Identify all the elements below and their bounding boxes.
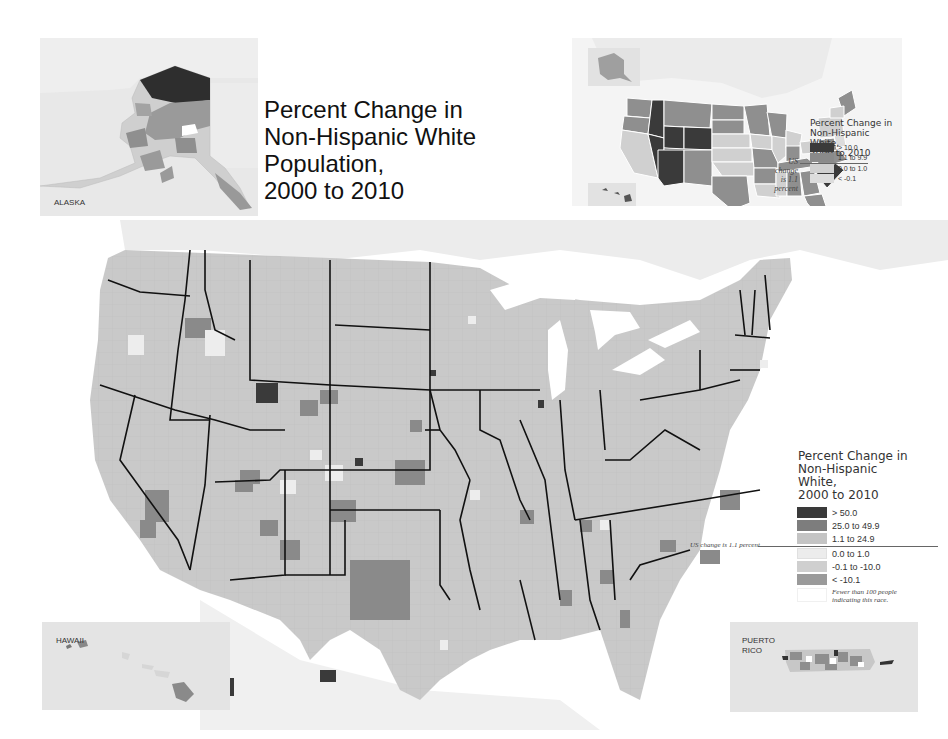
county-legend-item: Fewer than 100 people indicating this ra… — [797, 588, 904, 604]
legend-label: 25.0 to 49.9 — [832, 521, 880, 531]
puerto-rico-label-line: PUERTO — [742, 636, 775, 646]
county-legend-title: Percent Change in Non-Hispanic White, 20… — [798, 450, 908, 502]
state-legend-item: > 10.0 — [810, 143, 858, 152]
alaska-map-graphic — [40, 38, 258, 216]
alaska-label: ALASKA — [54, 198, 85, 208]
legend-label: 0.0 to 1.0 — [832, 549, 870, 559]
puerto-rico-label: PUERTO RICO — [742, 636, 775, 656]
legend-swatch — [797, 588, 827, 602]
legend-label: < -0.1 — [838, 175, 856, 182]
legend-swatch — [797, 520, 827, 531]
note-line: US — [760, 157, 798, 166]
hawaii-inset-map: HAWAII — [42, 622, 230, 710]
county-legend-item: > 50.0 — [797, 507, 857, 518]
legend-swatch — [810, 153, 834, 162]
title-line-4: 2000 to 2010 — [264, 177, 476, 204]
county-legend-item: 1.1 to 24.9 — [797, 533, 875, 544]
legend-label: Fewer than 100 people indicating this ra… — [832, 588, 904, 604]
state-legend-item: 1.1 to 9.9 — [810, 153, 867, 162]
legend-label: < -10.1 — [832, 575, 860, 585]
county-us-change-line — [758, 546, 938, 547]
hawaii-label: HAWAII — [56, 636, 84, 646]
county-legend-item: 25.0 to 49.9 — [797, 520, 880, 531]
state-legend-item: 0.0 to 1.0 — [810, 164, 867, 173]
legend-label: -0.1 to -10.0 — [832, 562, 881, 572]
state-us-change-note: US change is 1.1 percent — [760, 157, 798, 193]
county-legend-item: < -10.1 — [797, 574, 860, 585]
legend-swatch — [797, 548, 827, 559]
legend-swatch — [797, 507, 827, 518]
legend-swatch — [810, 174, 834, 183]
state-legend-title-line: Percent Change in — [810, 118, 892, 128]
note-line: change — [760, 166, 798, 175]
legend-swatch — [797, 561, 827, 572]
map-title: Percent Change in Non-Hispanic White Pop… — [264, 96, 476, 204]
legend-swatch — [797, 574, 827, 585]
title-line-3: Population, — [264, 150, 476, 177]
alaska-inset-map: ALASKA — [40, 38, 258, 216]
county-legend-item: 0.0 to 1.0 — [797, 548, 870, 559]
puerto-rico-label-line: RICO — [742, 646, 775, 656]
legend-label: 1.1 to 24.9 — [832, 534, 875, 544]
state-legend-title-line: Non-Hispanic — [810, 128, 892, 138]
legend-label: 1.1 to 9.9 — [838, 154, 867, 161]
puerto-rico-inset-map: PUERTO RICO — [730, 622, 918, 712]
county-legend-item: -0.1 to -10.0 — [797, 561, 881, 572]
legend-swatch — [810, 143, 834, 152]
state-legend-title: Percent Change in Non-Hispanic White, 20… — [810, 118, 892, 158]
note-line: is 1.1 percent — [760, 175, 798, 193]
legend-swatch — [810, 164, 834, 173]
legend-label: > 50.0 — [832, 508, 857, 518]
legend-label: 0.0 to 1.0 — [838, 165, 867, 172]
title-line-1: Percent Change in — [264, 96, 476, 123]
title-line-2: Non-Hispanic White — [264, 123, 476, 150]
county-us-change-note: US change is 1.1 percent — [690, 541, 760, 549]
county-legend-title-line: 2000 to 2010 — [798, 489, 908, 502]
state-legend-item: < -0.1 — [810, 174, 856, 183]
legend-label: > 10.0 — [838, 144, 858, 151]
legend-swatch — [797, 533, 827, 544]
